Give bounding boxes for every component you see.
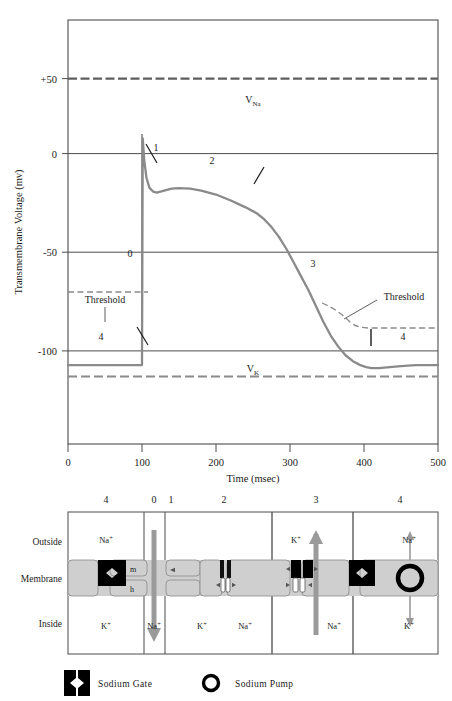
plot-frame bbox=[68, 20, 438, 444]
x-tick-label-0: 0 bbox=[65, 457, 70, 468]
chart-phase-label-1: 1 bbox=[154, 142, 159, 153]
membrane-diagram: 4 0 1 2 3 4 m h bbox=[21, 494, 438, 654]
gate-fin bbox=[227, 560, 231, 578]
gate-label-m: m bbox=[130, 565, 137, 574]
threshold-label-right: Threshold bbox=[384, 291, 425, 302]
chart-phase-label-4-right: 4 bbox=[401, 331, 406, 342]
gate-leaflet bbox=[221, 578, 225, 592]
gate-leaflet bbox=[300, 578, 305, 592]
x-axis: 0 100 200 300 400 500 Time (msec) bbox=[65, 444, 446, 485]
gate-half-left bbox=[64, 670, 76, 696]
y-tick-label-0: 0 bbox=[52, 149, 57, 160]
chart-phase-label-4-left: 4 bbox=[99, 331, 104, 342]
x-tick-label-200: 200 bbox=[208, 457, 224, 468]
legend-label-sodium-pump: Sodium Pump bbox=[235, 679, 294, 689]
panel-header-3: 3 bbox=[314, 494, 319, 505]
panel-header-0: 0 bbox=[152, 494, 157, 505]
x-tick-label-400: 400 bbox=[356, 457, 372, 468]
x-axis-title: Time (msec) bbox=[227, 473, 280, 485]
membrane-block bbox=[200, 560, 222, 596]
panel-header-4a: 4 bbox=[104, 494, 109, 505]
diagram-legend: Sodium Gate Sodium Pump bbox=[64, 670, 294, 696]
row-label-inside: Inside bbox=[39, 619, 62, 629]
gate-leaflet bbox=[226, 578, 230, 592]
gate-fin bbox=[303, 560, 313, 578]
row-label-membrane: Membrane bbox=[21, 574, 62, 584]
membrane-block bbox=[68, 560, 98, 596]
membrane-block bbox=[166, 580, 200, 596]
y-axis-title: Transmembrane Voltage (mv) bbox=[13, 169, 25, 295]
chart-phase-label-3: 3 bbox=[311, 258, 316, 269]
y-tick-label-minus100: -100 bbox=[38, 346, 57, 357]
gate-fin bbox=[291, 560, 301, 578]
action-potential-chart: VNa VK Threshold Threshold 4 0 1 2 3 4 bbox=[13, 20, 446, 485]
membrane-block bbox=[227, 560, 290, 596]
y-tick-label-minus50: -50 bbox=[43, 247, 57, 258]
membrane-block bbox=[166, 560, 200, 576]
gate-fin bbox=[220, 560, 224, 578]
gate-half-right bbox=[78, 670, 90, 696]
x-tick-label-300: 300 bbox=[282, 457, 298, 468]
panel-header-1: 1 bbox=[169, 494, 174, 505]
threshold-label-left: Threshold bbox=[85, 294, 126, 305]
y-axis: +50 0 -50 -100 Transmembrane Voltage (mv… bbox=[13, 74, 68, 357]
x-tick-label-500: 500 bbox=[430, 457, 446, 468]
row-label-outside: Outside bbox=[32, 537, 62, 547]
figure-svg: VNa VK Threshold Threshold 4 0 1 2 3 4 bbox=[0, 0, 452, 701]
legend-label-sodium-gate: Sodium Gate bbox=[98, 679, 152, 689]
chart-phase-label-2: 2 bbox=[210, 155, 215, 166]
x-tick-label-100: 100 bbox=[134, 457, 150, 468]
panel-header-4b: 4 bbox=[398, 494, 403, 505]
gate-leaflet bbox=[293, 578, 298, 592]
panel-header-2: 2 bbox=[222, 494, 227, 505]
gate-label-h: h bbox=[130, 585, 134, 594]
y-tick-label-50: +50 bbox=[41, 74, 57, 85]
legend-sodium-gate-icon bbox=[64, 670, 90, 696]
chart-phase-label-0: 0 bbox=[128, 248, 133, 259]
figure-root: VNa VK Threshold Threshold 4 0 1 2 3 4 bbox=[0, 0, 452, 701]
legend-sodium-pump-icon bbox=[204, 676, 219, 691]
